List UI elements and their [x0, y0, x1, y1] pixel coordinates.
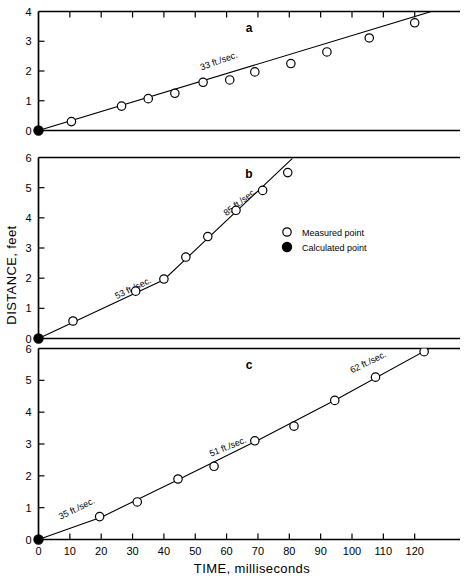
- panel-c-y-tick-label: 2: [25, 470, 31, 482]
- panel-a: 0123433 ft./sec.a: [25, 6, 460, 137]
- panel-c-y-tick-label: 0: [25, 534, 31, 546]
- measured-point: [284, 168, 292, 176]
- measured-point: [144, 94, 152, 102]
- x-axis-tick-label: 0: [35, 545, 41, 557]
- measured-point: [131, 287, 139, 295]
- panel-b-slope-label: 85 ft./sec.: [222, 186, 259, 218]
- measured-point: [133, 498, 141, 506]
- panel-a-y-tick-label: 2: [25, 65, 31, 77]
- panel-a-slope-label: 33 ft./sec.: [199, 50, 239, 73]
- measured-point: [251, 437, 259, 445]
- calculated-point: [34, 535, 43, 544]
- panel-c-label: c: [246, 358, 253, 372]
- x-axis-tick-label: 90: [315, 545, 327, 557]
- measured-point: [365, 34, 373, 42]
- panel-b-y-tick-label: 3: [25, 242, 31, 254]
- x-axis-tick-label: 80: [283, 545, 295, 557]
- panel-c-y-tick-label: 5: [25, 374, 31, 386]
- multi-panel-chart: 0123433 ft./sec.a012345653 ft./sec.85 ft…: [0, 0, 467, 584]
- calculated-point: [34, 126, 43, 135]
- x-axis-tick-label: 120: [406, 545, 424, 557]
- measured-point: [182, 253, 190, 261]
- legend-measured-label: Measured point: [302, 228, 365, 238]
- measured-point: [174, 475, 182, 483]
- panel-c-slope-label: 62 ft./sec.: [348, 349, 387, 375]
- panel-b-y-tick-label: 5: [25, 182, 31, 194]
- panel-b-label: b: [245, 167, 252, 181]
- legend-measured-marker-icon: [283, 228, 291, 236]
- x-axis-tick-label: 20: [95, 545, 107, 557]
- panel-a-label: a: [246, 21, 253, 35]
- measured-point: [204, 232, 212, 240]
- panel-b-fit-line: [39, 158, 293, 338]
- panel-c-y-tick-label: 4: [25, 406, 31, 418]
- measured-point: [258, 186, 266, 194]
- measured-point: [69, 317, 77, 325]
- panel-b: 012345653 ft./sec.85 ft./sec.b: [25, 152, 460, 345]
- x-axis-tick-label: 30: [126, 545, 138, 557]
- x-axis-tick-label: 100: [343, 545, 361, 557]
- measured-point: [287, 59, 295, 67]
- panel-b-y-tick-label: 4: [25, 212, 31, 224]
- x-axis-tick-label: 110: [375, 545, 393, 557]
- panel-b-y-tick-label: 1: [25, 302, 31, 314]
- measured-point: [371, 373, 379, 381]
- measured-point: [232, 206, 240, 214]
- measured-point: [95, 512, 103, 520]
- measured-point: [210, 462, 218, 470]
- x-axis-tick-label: 70: [252, 545, 264, 557]
- calculated-point: [34, 334, 43, 343]
- panel-b-y-tick-label: 6: [25, 152, 31, 164]
- measured-point: [323, 48, 331, 56]
- legend-calculated-label: Calculated point: [302, 243, 367, 253]
- measured-point: [290, 422, 298, 430]
- panel-c-slope-label: 35 ft./sec.: [57, 495, 96, 521]
- x-axis-tick-label: 10: [64, 545, 76, 557]
- panel-c-y-tick-label: 6: [25, 343, 31, 355]
- panel-a-fit-line: [39, 7, 447, 130]
- measured-point: [331, 396, 339, 404]
- panel-a-y-tick-label: 0: [25, 125, 31, 137]
- x-axis-title: TIME, milliseconds: [194, 561, 310, 576]
- figure-container: 0123433 ft./sec.a012345653 ft./sec.85 ft…: [0, 0, 467, 584]
- panel-c-y-tick-label: 3: [25, 438, 31, 450]
- panel-a-y-tick-label: 4: [25, 6, 31, 18]
- legend: Measured pointCalculated point: [282, 228, 367, 253]
- x-axis-tick-label: 40: [158, 545, 170, 557]
- x-axis-tick-label: 60: [220, 545, 232, 557]
- legend-calculated-marker-icon: [282, 242, 291, 251]
- panel-c-y-tick-label: 1: [25, 502, 31, 514]
- measured-point: [160, 275, 168, 283]
- x-axis-tick-label: 50: [189, 545, 201, 557]
- panel-a-y-tick-label: 1: [25, 95, 31, 107]
- measured-point: [420, 347, 428, 355]
- y-axis-title: DISTANCE, feet: [4, 225, 19, 324]
- measured-point: [226, 76, 234, 84]
- panel-b-y-tick-label: 2: [25, 272, 31, 284]
- measured-point: [199, 78, 207, 86]
- measured-point: [117, 102, 125, 110]
- measured-point: [67, 117, 75, 125]
- panel-a-y-tick-label: 3: [25, 35, 31, 47]
- panel-c: 0123456010203040506070809010011012035 ft…: [25, 343, 460, 557]
- measured-point: [251, 68, 259, 76]
- measured-point: [411, 19, 419, 27]
- measured-point: [171, 89, 179, 97]
